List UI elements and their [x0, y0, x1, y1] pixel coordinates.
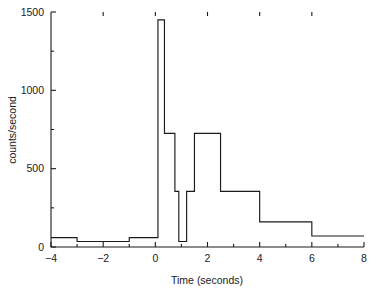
- y-tick-label: 1500: [21, 6, 45, 18]
- y-axis-title: counts/second: [6, 96, 18, 164]
- x-axis-title: Time (seconds): [171, 274, 243, 286]
- x-tick-label: 8: [361, 252, 367, 264]
- x-tick-label: −4: [45, 252, 57, 264]
- x-tick-label: 6: [309, 252, 315, 264]
- x-tick-label: 0: [152, 252, 158, 264]
- y-tick-label: 500: [26, 162, 44, 174]
- chart-background: [0, 0, 376, 289]
- x-tick-label: 2: [205, 252, 211, 264]
- y-tick-label: 0: [38, 241, 44, 253]
- x-tick-label: −2: [97, 252, 109, 264]
- counts-per-second-vs-time-step-plot: −4−202468 050010001500 Time (seconds) co…: [0, 0, 376, 289]
- y-tick-label: 1000: [21, 84, 45, 96]
- x-tick-label: 4: [257, 252, 263, 264]
- chart-figure: −4−202468 050010001500 Time (seconds) co…: [0, 0, 376, 289]
